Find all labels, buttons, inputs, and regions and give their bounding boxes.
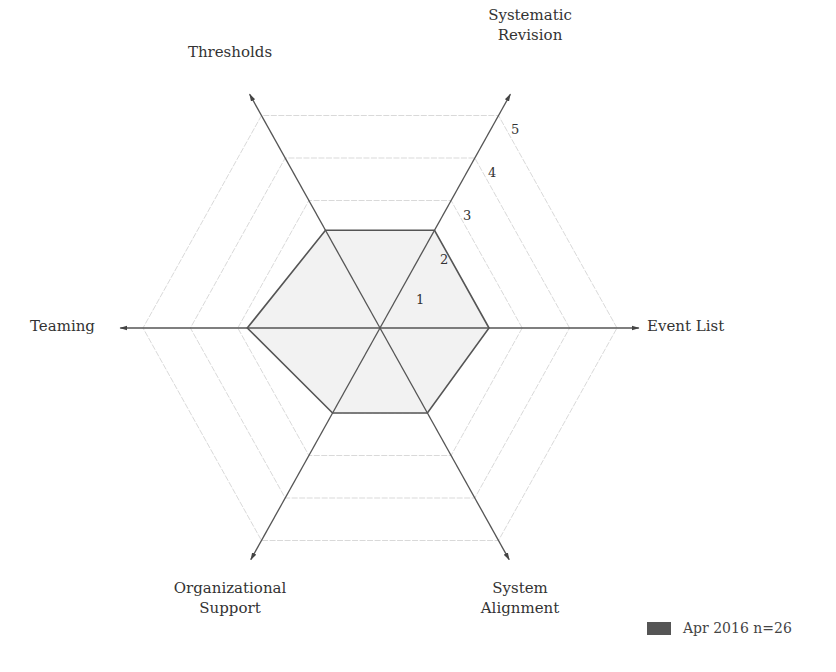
axis-label-line: Support [165,598,295,618]
series-fill [247,230,489,413]
axis-label-systematic-revision: Systematic Revision [470,5,590,45]
axis-label-line: Systematic [470,5,590,25]
tick-label-4: 4 [488,165,496,180]
legend-swatch [647,622,671,635]
tick-label-1: 1 [416,292,424,307]
radar-chart [0,0,836,672]
radar-axes [120,94,639,559]
tick-label-3: 3 [463,208,471,223]
axis-label-line: Alignment [465,598,575,618]
radar-series [247,230,489,413]
axis-label-organizational-support: Organizational Support [165,578,295,618]
legend-label: Apr 2016 n=26 [683,620,792,636]
axis-label-line: System [465,578,575,598]
axis-label-event-list: Event List [647,316,747,336]
axis-label-line: Revision [470,25,590,45]
axis-label-teaming: Teaming [30,316,110,336]
legend: Apr 2016 n=26 [647,620,792,636]
axis-label-thresholds: Thresholds [170,42,290,62]
axis-label-system-alignment: System Alignment [465,578,575,618]
tick-label-5: 5 [511,122,519,137]
tick-label-2: 2 [440,252,448,267]
axis-label-line: Organizational [165,578,295,598]
